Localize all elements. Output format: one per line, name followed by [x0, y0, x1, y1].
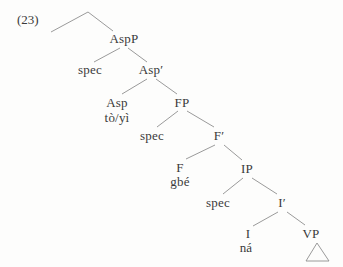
- node-asp-morpheme: tò/yì: [105, 111, 130, 125]
- node-f-morpheme: gbé: [170, 175, 189, 189]
- branch-ibar-to-vp: [287, 212, 305, 225]
- branch-fbar-to-f: [186, 145, 215, 159]
- branch-root-to-aspp: [88, 12, 113, 31]
- node-vp: VP: [302, 227, 319, 241]
- node-i-bar: I′: [278, 196, 286, 210]
- node-asp-head: Asp: [106, 96, 128, 110]
- branch-ip-to-ibar: [252, 178, 277, 194]
- node-aspp: AspP: [110, 32, 139, 46]
- node-f-head: F: [176, 161, 183, 175]
- branch-fp-to-fbar: [187, 111, 214, 127]
- branch-aspp-to-spec: [94, 48, 120, 62]
- branch-aspbar-to-asp: [122, 79, 147, 94]
- node-f-bar: F′: [214, 129, 224, 143]
- node-spec-aspp: spec: [78, 63, 102, 77]
- node-i-morpheme: ná: [240, 241, 253, 255]
- syntax-tree-figure: (23) AspP spec Asp′ Asp tò/yì FP spec F′…: [0, 0, 343, 267]
- node-asp-bar: Asp′: [139, 63, 164, 77]
- branch-ip-to-spec: [223, 178, 243, 194]
- node-spec-ip: spec: [206, 196, 230, 210]
- branch-ibar-to-i: [253, 212, 278, 226]
- node-spec-fp: spec: [140, 129, 164, 143]
- node-i-head: I: [246, 227, 251, 241]
- node-fp: FP: [175, 96, 190, 110]
- tree-branches: [0, 0, 343, 267]
- branch-aspbar-to-fp: [156, 79, 177, 94]
- node-ip: IP: [241, 162, 253, 176]
- vp-triangle: [306, 243, 329, 261]
- branch-fbar-to-ip: [224, 145, 242, 160]
- branch-fp-to-spec: [157, 111, 178, 127]
- branch-root-left: [51, 12, 88, 32]
- branch-aspp-to-aspbar: [128, 48, 147, 62]
